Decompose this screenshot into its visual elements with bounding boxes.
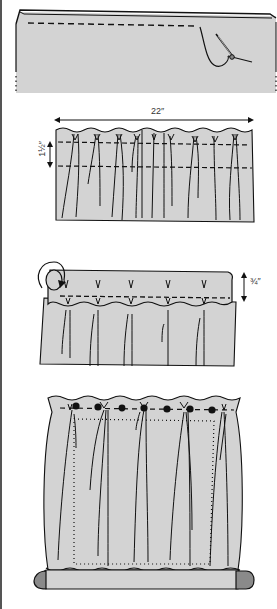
- panel-step-2: 22″ 1½″: [0, 100, 277, 225]
- hem-stitching-drawing: [0, 0, 277, 95]
- panel-step-4: [0, 390, 277, 609]
- finished-curtain-drawing: [0, 390, 277, 609]
- curtain-rod: [44, 570, 240, 589]
- panel-step-1: [0, 0, 277, 95]
- panel-step-3: ¾″: [0, 258, 277, 378]
- rod-end-right: [236, 571, 254, 589]
- gathered-panel-drawing: [0, 100, 277, 225]
- casing-drawing: [0, 258, 277, 378]
- rod-end-left: [34, 571, 46, 589]
